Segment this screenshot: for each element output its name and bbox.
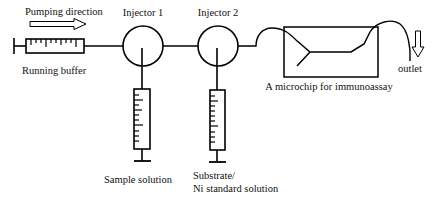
running-buffer-syringe — [14, 38, 84, 54]
outlet-arrow-icon — [412, 31, 424, 57]
tube-injector2-to-chip — [238, 28, 296, 46]
pumping-direction-arrow-icon — [30, 19, 86, 30]
running-buffer-label: Running buffer — [22, 65, 87, 76]
substrate-label-line2: Ni standard solution — [193, 183, 279, 194]
flow-injection-diagram: Pumping direction Running buffer Injecto… — [0, 0, 433, 197]
injector-1-valve — [123, 26, 163, 66]
substrate-label-line1: Substrate/ — [193, 170, 235, 181]
sample-solution-label: Sample solution — [104, 174, 173, 185]
microchip-label: A microchip for immunoassay — [265, 81, 393, 92]
pumping-direction-label: Pumping direction — [25, 6, 104, 17]
sample-solution-syringe — [134, 89, 151, 161]
substrate-syringe — [209, 90, 226, 162]
injector-2-label: Injector 2 — [198, 7, 239, 18]
injector-1-label: Injector 1 — [123, 7, 164, 18]
outlet-label: outlet — [398, 63, 422, 74]
injector-2-valve — [198, 26, 238, 66]
microchip-channel — [296, 32, 370, 66]
